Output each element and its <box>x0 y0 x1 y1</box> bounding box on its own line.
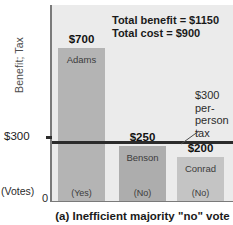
bar-conrad-body: Conrad (No) <box>177 157 224 201</box>
totals-annotation: Total benefit = $1150 Total cost = $900 <box>112 14 219 40</box>
bar-chart-figure: Benefit; Tax Total benefit = $1150 Total… <box>0 0 233 225</box>
bar-adams-value-label: $700 <box>69 33 95 45</box>
tax-annotation-line-2: per- <box>195 102 229 115</box>
bar-adams-vote-label: (Yes) <box>71 188 92 198</box>
votes-axis-label: (Votes) <box>1 185 34 197</box>
bar-benson-vote-label: (No) <box>134 188 152 198</box>
bar-conrad[interactable]: $200 Conrad (No) <box>177 157 224 201</box>
tax-annotation-line-3: person <box>195 114 229 127</box>
origin-label: 0 <box>42 192 48 204</box>
bar-benson-person-label: Benson <box>126 152 158 163</box>
tax-annotation: $300 per- person tax <box>195 89 229 139</box>
y-axis-title: Benefit; Tax <box>13 15 25 115</box>
bar-conrad-vote-label: (No) <box>192 188 210 198</box>
bar-adams-person-label: Adams <box>67 54 97 65</box>
tax-annotation-line-4: tax <box>195 127 229 140</box>
per-person-tax-line <box>52 141 233 144</box>
figure-caption: (a) Inefficient majority "no" vote <box>52 210 233 222</box>
bar-benson[interactable]: $250 Benson (No) <box>119 146 166 201</box>
tax-annotation-line-1: $300 <box>195 89 229 102</box>
total-cost-text: Total cost = $900 <box>112 27 219 40</box>
bar-benson-body: Benson (No) <box>119 146 166 201</box>
bar-adams-body: Adams (Yes) <box>58 48 105 201</box>
tax-axis-value-label: $300 <box>4 130 30 142</box>
bar-conrad-person-label: Conrad <box>185 163 216 174</box>
tax-axis-tick <box>46 136 52 139</box>
total-benefit-text: Total benefit = $1150 <box>112 14 219 27</box>
bar-adams[interactable]: $700 Adams (Yes) <box>58 48 105 201</box>
annotation-leader-line <box>180 131 200 145</box>
plot-area: Total benefit = $1150 Total cost = $900 … <box>52 5 233 201</box>
